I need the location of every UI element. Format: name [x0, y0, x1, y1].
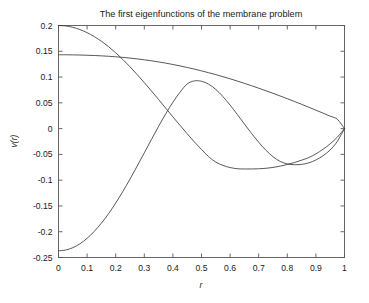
eigenfunction-line-chart: The first eigenfunctions of the membrane…	[0, 0, 369, 303]
y-tick-label: -0.15	[33, 201, 53, 211]
y-tick-label: -0.1	[38, 175, 53, 185]
y-tick-label: -0.2	[38, 227, 53, 237]
y-tick-label: 0.15	[36, 46, 53, 56]
x-tick-label: 0.1	[81, 263, 93, 273]
x-tick-label: 0.4	[167, 263, 179, 273]
y-tick-label: 0.1	[41, 72, 53, 82]
x-tick-label: 0.7	[253, 263, 265, 273]
x-tick-label: 0.8	[281, 263, 293, 273]
x-tick-label: 0.6	[224, 263, 236, 273]
x-tick-label: 0.3	[138, 263, 150, 273]
y-axis-label: v(r)	[9, 134, 19, 147]
y-tick-label: 0.2	[41, 21, 53, 31]
y-tick-label: -0.05	[33, 149, 53, 159]
x-tick-label: 1	[342, 263, 347, 273]
x-tick-label: 0.9	[310, 263, 322, 273]
y-tick-label: 0.05	[36, 98, 53, 108]
figure-container: The first eigenfunctions of the membrane…	[0, 0, 369, 303]
x-tick-label: 0.5	[196, 263, 208, 273]
chart-title: The first eigenfunctions of the membrane…	[100, 9, 303, 19]
x-tick-label: 0	[56, 263, 61, 273]
y-tick-label: -0.25	[33, 253, 53, 263]
x-tick-label: 0.2	[110, 263, 122, 273]
y-tick-label: 0	[48, 124, 53, 134]
